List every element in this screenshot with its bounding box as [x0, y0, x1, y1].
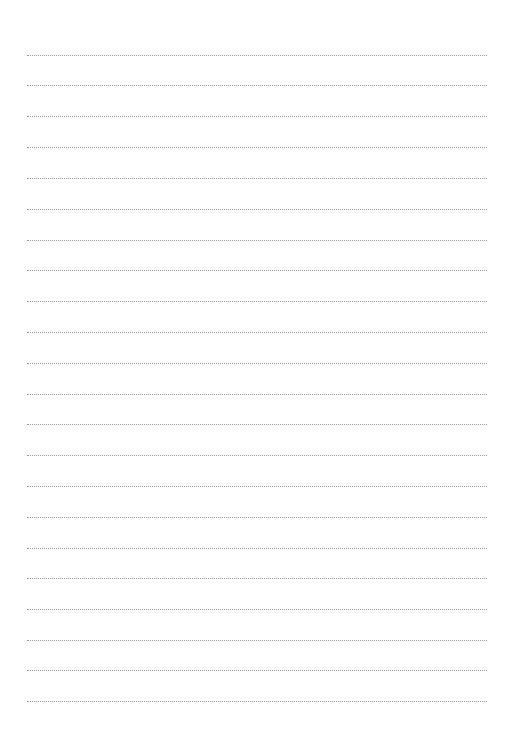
ruled-line [27, 270, 487, 271]
lined-paper-page [0, 0, 514, 736]
ruled-line [27, 240, 487, 241]
ruled-line [27, 116, 487, 117]
ruled-line [27, 548, 487, 549]
ruled-line [27, 670, 487, 671]
ruled-line [27, 209, 487, 210]
ruled-line [27, 363, 487, 364]
ruled-line [27, 640, 487, 641]
ruled-line [27, 455, 487, 456]
ruled-line [27, 486, 487, 487]
ruled-line [27, 394, 487, 395]
ruled-line [27, 55, 487, 56]
ruled-line [27, 701, 487, 702]
ruled-line [27, 178, 487, 179]
ruled-line [27, 609, 487, 610]
ruled-line [27, 332, 487, 333]
ruled-line [27, 424, 487, 425]
ruled-line [27, 517, 487, 518]
ruled-line [27, 85, 487, 86]
ruled-line [27, 147, 487, 148]
ruled-line [27, 301, 487, 302]
ruled-line [27, 578, 487, 579]
